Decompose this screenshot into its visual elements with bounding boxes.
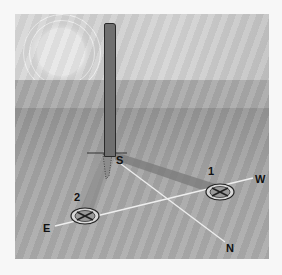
label-west: W [255, 173, 265, 185]
label-marker-2: 2 [74, 191, 80, 203]
label-north: N [226, 242, 234, 254]
marker-1-icon [206, 184, 234, 200]
label-south: S [116, 154, 123, 166]
stick [104, 23, 116, 157]
label-east: E [43, 222, 50, 234]
label-marker-1: 1 [208, 165, 214, 177]
illustration-frame: 1 W 2 E S N [15, 14, 269, 259]
marker-2-icon [71, 208, 99, 224]
shadow-and-lines [15, 14, 269, 259]
